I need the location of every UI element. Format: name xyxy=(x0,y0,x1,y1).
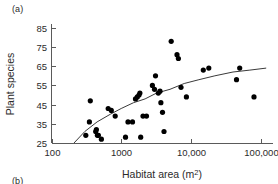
x-tick-label: 10,000 xyxy=(177,147,206,158)
y-tick-label: 45 xyxy=(36,100,47,111)
data-point xyxy=(157,89,162,94)
data-point xyxy=(206,66,211,71)
data-point xyxy=(83,133,88,138)
data-point xyxy=(201,68,206,73)
data-point xyxy=(94,127,99,132)
data-point xyxy=(153,73,158,78)
data-point xyxy=(88,98,93,103)
data-point xyxy=(125,119,130,124)
y-axis-title: Plant species xyxy=(4,53,16,115)
data-point xyxy=(178,85,183,90)
x-axis-title-tail: ) xyxy=(199,168,203,180)
data-point xyxy=(113,114,118,119)
x-tick-label: 100 xyxy=(45,147,61,158)
y-tick-label: 85 xyxy=(36,23,47,34)
x-axis-ticks: 100100010,000100,000 xyxy=(45,139,278,158)
data-point xyxy=(251,94,256,99)
data-point xyxy=(184,94,189,99)
x-axis-title-base: Habitat area (m xyxy=(122,168,195,180)
data-point xyxy=(109,108,114,113)
data-point xyxy=(158,100,163,105)
data-point xyxy=(130,119,135,124)
data-point xyxy=(176,56,181,61)
y-tick-label: 35 xyxy=(36,119,47,130)
x-tick-label: 1000 xyxy=(111,147,132,158)
y-tick-label: 65 xyxy=(36,61,47,72)
data-point xyxy=(137,91,142,96)
data-point xyxy=(87,119,92,124)
data-point xyxy=(152,87,157,92)
data-point xyxy=(234,77,239,82)
x-axis-title: Habitat area (m2) xyxy=(122,168,202,181)
figure-panel-a: (a) (b) 25354555657585 100100010,000100,… xyxy=(0,0,278,184)
data-point xyxy=(169,39,174,44)
data-point xyxy=(160,110,165,115)
data-point xyxy=(237,66,242,71)
data-point xyxy=(161,129,166,134)
scatter-plot: 25354555657585 100100010,000100,000 Plan… xyxy=(0,0,278,184)
y-tick-label: 55 xyxy=(36,80,47,91)
y-axis-ticks: 25354555657585 xyxy=(36,23,56,149)
y-tick-label: 75 xyxy=(36,42,47,53)
data-point xyxy=(99,137,104,142)
data-point xyxy=(144,114,149,119)
x-tick-label: 100,000 xyxy=(244,147,278,158)
data-points xyxy=(83,39,256,142)
data-point xyxy=(138,135,143,140)
data-point xyxy=(123,135,128,140)
plot-axes xyxy=(52,24,274,144)
